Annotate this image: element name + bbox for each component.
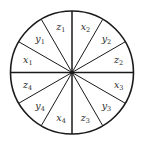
sector-label: y1: [34, 33, 45, 46]
center-hub: [70, 71, 74, 75]
sector-label: z1: [55, 21, 65, 34]
sector-label: x4: [56, 112, 65, 125]
sector-label: y3: [101, 100, 112, 113]
sector-label: x3: [114, 79, 124, 92]
sector-label-subscript: 3: [107, 105, 111, 113]
sector-label-subscript: 4: [62, 117, 66, 125]
sector-label-subscript: 4: [28, 84, 32, 92]
sector-label-subscript: 1: [28, 59, 32, 67]
sector-label: x2: [81, 21, 91, 34]
sector-label-subscript: 2: [107, 38, 111, 46]
sector-label-subscript: 1: [41, 38, 45, 46]
sector-label-subscript: 4: [41, 105, 45, 113]
sector-wheel-diagram: x2y2z2x3y3z3x4y4z4x1y1z1: [0, 0, 141, 142]
sector-label: z3: [80, 112, 90, 125]
sector-label: y4: [34, 100, 45, 113]
sector-label-subscript: 2: [86, 26, 90, 34]
sector-label: y2: [101, 33, 112, 46]
sector-label-subscript: 2: [119, 59, 123, 67]
sector-label: z2: [113, 54, 123, 67]
sector-label: z4: [22, 79, 32, 92]
sector-label-subscript: 3: [119, 84, 123, 92]
sector-label-subscript: 3: [86, 117, 90, 125]
sector-label-subscript: 1: [61, 26, 65, 34]
sector-label: x1: [23, 54, 32, 67]
